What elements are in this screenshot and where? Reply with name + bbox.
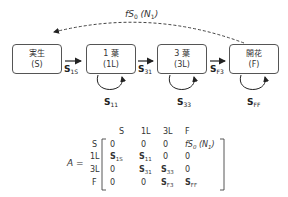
matrix-cell: S11	[139, 152, 152, 162]
matrix-cell: S31	[139, 165, 152, 175]
matrix-cell: 0	[185, 165, 190, 174]
matrix-cell: 0	[110, 140, 115, 149]
matrix-cell: S33	[161, 165, 174, 175]
col-header: F	[185, 127, 190, 136]
transition-matrix: A = S 1L 3L F S 1L 3L F 0 0 0 fS0 (N1) S…	[0, 0, 288, 197]
row-header: S	[92, 140, 97, 149]
matrix-cell: S1S	[110, 152, 123, 162]
matrix-cell: SF3	[161, 178, 173, 188]
col-header: 3L	[163, 127, 173, 136]
matrix-cell: SFF	[185, 178, 197, 188]
col-header: 1L	[141, 127, 151, 136]
row-header: F	[92, 178, 97, 187]
row-header: 3L	[90, 165, 100, 174]
matrix-cell: 0	[110, 165, 115, 174]
matrix-cell: 0	[185, 152, 190, 161]
matrix-cell: 0	[110, 178, 115, 187]
matrix-cell: 0	[163, 140, 168, 149]
matrix-cell: 0	[141, 178, 146, 187]
row-header: 1L	[90, 152, 100, 161]
matrix-name: A =	[67, 158, 84, 168]
col-header: S	[119, 127, 124, 136]
matrix-cell: 0	[163, 152, 168, 161]
matrix-cell-fecundity: fS0 (N1)	[185, 140, 215, 150]
matrix-cell: 0	[141, 140, 146, 149]
